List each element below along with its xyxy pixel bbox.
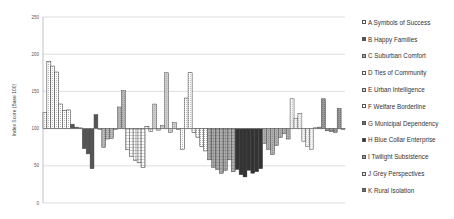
legend-label: F Welfare Borderline bbox=[368, 103, 426, 110]
bar bbox=[267, 129, 271, 150]
bar bbox=[282, 129, 286, 134]
legend-swatch-icon bbox=[362, 71, 366, 75]
bar bbox=[70, 124, 74, 128]
bar bbox=[325, 129, 329, 131]
bar bbox=[137, 129, 141, 163]
bar bbox=[67, 110, 71, 129]
legend-label: G Municipal Dependency bbox=[368, 120, 438, 127]
legend-swatch-icon bbox=[362, 172, 366, 176]
bar bbox=[223, 129, 227, 171]
bar bbox=[55, 72, 59, 129]
bar bbox=[149, 129, 153, 132]
legend-label: A Symbols of Success bbox=[368, 19, 430, 26]
y-tick-label: 0 bbox=[36, 201, 39, 206]
bar bbox=[145, 126, 149, 128]
bar bbox=[212, 129, 216, 168]
bar bbox=[204, 129, 208, 151]
bar bbox=[43, 112, 47, 128]
bar bbox=[184, 98, 188, 129]
legend-item: A Symbols of Success bbox=[362, 14, 454, 31]
bar bbox=[216, 129, 220, 170]
bar bbox=[290, 99, 294, 129]
y-axis-ticks: 050100150200250 bbox=[31, 15, 39, 206]
bar bbox=[247, 129, 251, 171]
legend-swatch-icon bbox=[362, 138, 366, 142]
bar bbox=[118, 107, 122, 129]
bar bbox=[259, 129, 263, 169]
bar bbox=[90, 129, 94, 169]
y-tick-label: 150 bbox=[31, 89, 39, 94]
legend-item: J Grey Perspectives bbox=[362, 165, 454, 182]
bar bbox=[86, 129, 90, 154]
legend-label: B Happy Families bbox=[368, 36, 417, 43]
y-tick-label: 100 bbox=[31, 126, 39, 131]
y-tick-label: 250 bbox=[31, 15, 39, 20]
legend-label: J Grey Perspectives bbox=[368, 170, 424, 177]
legend-item: B Happy Families bbox=[362, 31, 454, 48]
bar bbox=[333, 129, 337, 133]
legend-label: D Ties of Community bbox=[368, 69, 426, 76]
legend: A Symbols of SuccessB Happy FamiliesC Su… bbox=[362, 14, 454, 199]
bar bbox=[188, 73, 192, 129]
legend-item: D Ties of Community bbox=[362, 64, 454, 81]
bar bbox=[51, 66, 55, 128]
legend-swatch-icon bbox=[362, 54, 366, 58]
bar bbox=[192, 129, 196, 133]
legend-item: C Suburban Comfort bbox=[362, 48, 454, 65]
legend-label: C Suburban Comfort bbox=[368, 52, 426, 59]
bar bbox=[329, 129, 333, 132]
bar bbox=[235, 129, 239, 170]
bar bbox=[153, 104, 157, 129]
bar bbox=[219, 129, 223, 174]
bar bbox=[63, 111, 67, 129]
legend-label: I Twilight Subsistence bbox=[368, 153, 428, 160]
bar bbox=[302, 129, 306, 142]
legend-swatch-icon bbox=[362, 37, 366, 41]
bar bbox=[172, 123, 176, 129]
bar bbox=[255, 129, 259, 172]
y-tick-label: 200 bbox=[31, 52, 39, 57]
legend-label: H Blue Collar Enterprise bbox=[368, 136, 436, 143]
bar bbox=[59, 104, 63, 129]
bar bbox=[110, 129, 114, 139]
bar bbox=[239, 129, 243, 175]
bar bbox=[306, 129, 310, 147]
legend-label: K Rural Isolation bbox=[368, 187, 414, 194]
bar bbox=[82, 129, 86, 149]
bar bbox=[310, 129, 314, 150]
bar bbox=[161, 126, 165, 129]
bar bbox=[337, 109, 341, 129]
bar bbox=[121, 91, 125, 129]
legend-swatch-icon bbox=[362, 155, 366, 159]
bar bbox=[251, 129, 255, 174]
bar bbox=[129, 129, 133, 157]
bar bbox=[294, 118, 298, 128]
bar bbox=[133, 129, 137, 161]
legend-swatch-icon bbox=[362, 88, 366, 92]
bar bbox=[141, 129, 145, 168]
bars bbox=[43, 62, 345, 177]
bar bbox=[102, 129, 106, 148]
legend-swatch-icon bbox=[362, 104, 366, 108]
bar bbox=[180, 129, 184, 150]
legend-item: H Blue Collar Enterprise bbox=[362, 132, 454, 149]
bar bbox=[231, 129, 235, 172]
legend-swatch-icon bbox=[362, 20, 366, 24]
bar bbox=[165, 73, 169, 129]
bar bbox=[196, 129, 200, 138]
bar bbox=[274, 129, 278, 146]
legend-label: E Urban Intelligence bbox=[368, 86, 425, 93]
legend-swatch-icon bbox=[362, 188, 366, 192]
bar bbox=[286, 129, 290, 139]
legend-item: K Rural Isolation bbox=[362, 182, 454, 199]
bar bbox=[208, 129, 212, 160]
bar bbox=[298, 114, 302, 129]
bar bbox=[169, 129, 173, 133]
legend-swatch-icon bbox=[362, 121, 366, 125]
gridlines bbox=[43, 17, 345, 203]
bar bbox=[94, 114, 98, 128]
legend-item: F Welfare Borderline bbox=[362, 98, 454, 115]
bar bbox=[125, 129, 129, 150]
y-axis-label: Index Score (Base 100) bbox=[11, 83, 17, 136]
legend-item: I Twilight Subsistence bbox=[362, 148, 454, 165]
